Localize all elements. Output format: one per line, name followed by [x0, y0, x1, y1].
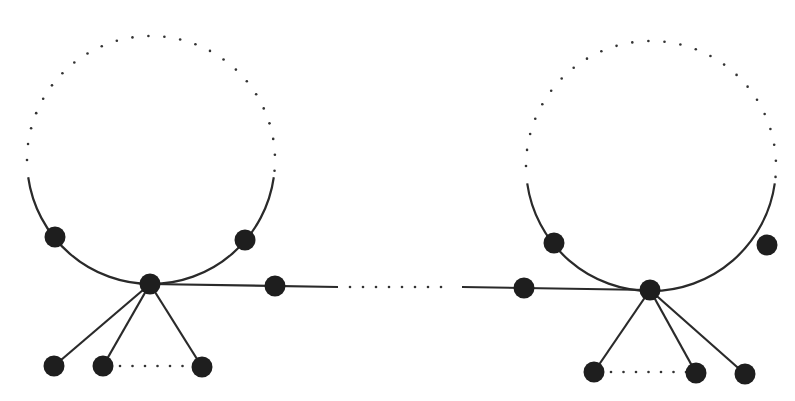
path-ellipsis [401, 286, 404, 289]
path-ellipsis [375, 286, 378, 289]
path-ellipsis [440, 286, 443, 289]
cycle-dotted-arc [526, 149, 529, 152]
leaf-edge [594, 290, 650, 372]
cycle-dotted-arc [163, 35, 166, 38]
cycle-node [45, 227, 66, 248]
path-ellipsis [362, 286, 365, 289]
leaf-ellipsis [635, 371, 638, 374]
cycle-node [544, 233, 565, 254]
cycle-dotted-arc [541, 103, 544, 106]
leaf-ellipsis [622, 371, 625, 374]
cycle-dotted-arc [773, 143, 776, 146]
leaf-ellipsis [156, 365, 159, 368]
connector-path [140, 274, 661, 301]
cycle-dotted-arc [35, 112, 38, 115]
cycle-dotted-arc [763, 113, 766, 116]
right-graph [525, 40, 778, 385]
leaf-ellipsis [181, 365, 184, 368]
path-ellipsis [388, 286, 391, 289]
cycle-dotted-arc [100, 45, 103, 48]
leaf-node [192, 357, 213, 378]
cycle-dotted-arc [746, 85, 749, 88]
leaf-ellipsis [672, 371, 675, 374]
path-edge-left [150, 284, 338, 287]
cycle-dotted-arc [560, 77, 563, 80]
leaf-edge [150, 284, 202, 367]
cycle-dotted-arc [272, 138, 275, 141]
cycle-dotted-arc [775, 159, 778, 162]
path-node-left [265, 276, 286, 297]
cycle-node [235, 230, 256, 251]
cycle-dotted-arc [179, 38, 182, 41]
cycle-dotted-arc [586, 57, 589, 60]
cycle-dotted-arc [774, 176, 777, 179]
leaf-edge [650, 290, 745, 374]
cycle-dotted-arc [51, 84, 54, 87]
leaf-ellipsis [144, 365, 147, 368]
leaf-edge [103, 284, 150, 366]
leaf-node [735, 364, 756, 385]
cycle-dotted-arc [679, 43, 682, 46]
cycle-solid-arc [28, 177, 274, 284]
cycle-dotted-arc [534, 117, 537, 120]
leaf-node [44, 356, 65, 377]
cycle-dotted-arc [273, 170, 276, 173]
cycle-node [757, 235, 778, 256]
cycle-dotted-arc [222, 58, 225, 61]
cycle-dotted-arc [235, 68, 238, 71]
leaf-node [93, 356, 114, 377]
path-ellipsis [414, 286, 417, 289]
cycle-dotted-arc [147, 35, 150, 38]
cycle-dotted-arc [209, 50, 212, 53]
hub-node-right [640, 280, 661, 301]
leaf-ellipsis [660, 371, 663, 374]
cycle-dotted-arc [572, 66, 575, 69]
cycle-dotted-arc [26, 159, 29, 162]
leaf-edge [650, 290, 696, 373]
cycle-dotted-arc [694, 48, 697, 51]
cycle-dotted-arc [723, 63, 726, 66]
leaf-edge [54, 284, 150, 366]
cycle-dotted-arc [550, 89, 553, 92]
cycle-dotted-arc [525, 165, 528, 168]
cycle-dotted-arc [262, 107, 265, 110]
cycle-dotted-arc [735, 74, 738, 77]
leaf-ellipsis [610, 371, 613, 374]
cycle-dotted-arc [27, 143, 30, 146]
path-ellipsis [349, 286, 352, 289]
leaf-node [686, 363, 707, 384]
cycle-dotted-arc [73, 61, 76, 64]
cycle-dotted-arc [647, 40, 650, 43]
cycle-solid-arc [527, 183, 775, 291]
cycle-dotted-arc [42, 97, 45, 100]
path-ellipsis [427, 286, 430, 289]
leaf-ellipsis [169, 365, 172, 368]
path-node-right [514, 278, 535, 299]
cycle-dotted-arc [600, 50, 603, 53]
leaf-ellipsis [131, 365, 134, 368]
cycle-dotted-arc [615, 45, 618, 48]
left-graph [26, 35, 276, 378]
cycle-dotted-arc [194, 43, 197, 46]
cycle-dotted-arc [86, 52, 89, 55]
cycle-dotted-arc [246, 80, 249, 83]
hub-node-left [140, 274, 161, 295]
cycle-dotted-arc [709, 55, 712, 58]
cycle-dotted-arc [663, 40, 666, 43]
cycle-dotted-arc [61, 72, 64, 75]
cycle-dotted-arc [131, 36, 134, 39]
cycle-dotted-arc [274, 154, 277, 157]
cycle-dotted-arc [30, 127, 33, 130]
graph-diagram [0, 0, 795, 401]
cycle-dotted-arc [529, 133, 532, 136]
cycle-dotted-arc [631, 41, 634, 44]
cycle-dotted-arc [268, 122, 271, 125]
leaf-node [584, 362, 605, 383]
cycle-dotted-arc [769, 128, 772, 131]
leaf-ellipsis [119, 365, 122, 368]
cycle-dotted-arc [116, 40, 119, 43]
leaf-ellipsis [647, 371, 650, 374]
cycle-dotted-arc [756, 98, 759, 101]
cycle-dotted-arc [255, 93, 258, 96]
